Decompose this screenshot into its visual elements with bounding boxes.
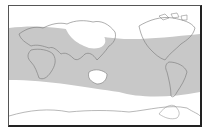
antarctica-outline — [9, 107, 200, 116]
map-frame — [8, 5, 202, 127]
world-map — [9, 6, 200, 125]
shaded-band — [9, 26, 200, 96]
arctic-islands — [159, 13, 187, 20]
